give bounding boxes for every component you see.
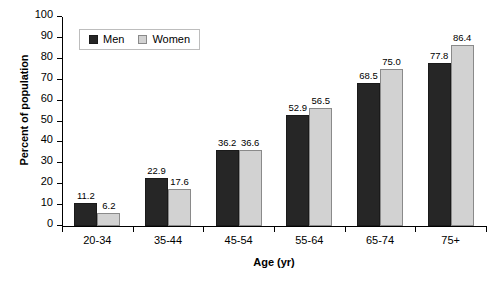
bar-men-55-64 [286,115,309,226]
x-axis-category-label: 45-54 [199,234,279,247]
legend-item-men: Men [89,34,124,45]
x-axis-tick [274,226,275,232]
y-tick-mark [57,79,62,80]
y-tick-label: 50 [25,114,53,125]
y-tick-label: 10 [25,197,53,208]
x-axis-category-label: 55-64 [269,234,349,247]
x-axis-category-label: 20-34 [57,234,137,247]
legend-swatch-men-icon [89,35,98,44]
x-axis-tick [203,226,204,232]
bar-men-65-74 [357,83,380,226]
y-tick-label: 0 [25,218,53,229]
x-axis-category-label: 75+ [411,234,491,247]
chart-legend: Men Women [79,29,200,50]
y-tick-label: 60 [25,93,53,104]
y-tick-label: 30 [25,155,53,166]
y-tick-mark [57,121,62,122]
bar-value-label: 77.8 [422,51,457,61]
y-tick-mark [57,183,62,184]
y-tick-mark [57,58,62,59]
bar-women-35-44 [168,189,191,226]
bar-value-label: 17.6 [162,177,197,187]
y-tick-label: 90 [25,30,53,41]
bar-value-label: 75.0 [374,57,409,67]
bar-value-label: 56.5 [303,96,338,106]
x-axis-tick [415,226,416,232]
x-axis-tick [486,226,487,232]
bar-women-65-74 [380,69,403,226]
y-tick-label: 20 [25,176,53,187]
legend-label-men: Men [103,34,124,45]
bar-value-label: 36.6 [233,138,268,148]
y-tick-mark [57,162,62,163]
x-axis-title: Age (yr) [62,256,486,268]
x-axis-tick [62,226,63,232]
bar-value-label: 11.2 [68,191,103,201]
bar-men-75+ [428,63,451,226]
y-tick-mark [57,141,62,142]
y-tick-mark [57,16,62,17]
bar-men-45-54 [216,150,239,226]
legend-label-women: Women [152,34,190,45]
bar-chart: Percent of population Age (yr) 010203040… [0,0,494,281]
y-tick-mark [57,204,62,205]
bar-value-label: 22.9 [139,166,174,176]
y-tick-mark [57,37,62,38]
x-axis-tick [345,226,346,232]
legend-item-women: Women [138,34,190,45]
y-tick-label: 40 [25,134,53,145]
bar-women-45-54 [239,150,262,226]
y-tick-mark [57,100,62,101]
bar-value-label: 68.5 [351,71,386,81]
bar-women-55-64 [309,108,332,226]
bar-value-label: 86.4 [445,33,480,43]
bar-women-75+ [451,45,474,226]
x-axis-category-label: 65-74 [340,234,420,247]
x-axis-category-label: 35-44 [128,234,208,247]
y-tick-label: 80 [25,51,53,62]
legend-swatch-women-icon [138,35,147,44]
y-tick-label: 100 [25,9,53,20]
x-axis-tick [133,226,134,232]
y-tick-label: 70 [25,72,53,83]
bar-women-20-34 [97,213,120,226]
bar-value-label: 6.2 [91,201,126,211]
